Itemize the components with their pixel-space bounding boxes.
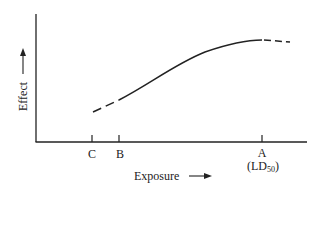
curve-dashed-plateau [264,40,290,42]
x-axis-label: Exposure [134,170,179,182]
y-axis-label-wrap: Effect [16,75,30,111]
ld50-prefix: (LD [247,159,267,173]
ld50-subscript: 50 [267,165,275,174]
tick-label-c: C [88,148,96,160]
y-axis-label: Effect [16,82,30,111]
curve-solid [119,40,262,100]
right-arrow-icon [204,173,212,179]
tick-label-a: A [258,147,267,159]
ld50-suffix: ) [275,159,279,173]
tick-label-a-ld50: (LD50) [247,160,279,176]
curve-dashed-low [93,100,119,112]
up-arrow-icon [20,48,26,56]
tick-label-b: B [116,148,124,160]
